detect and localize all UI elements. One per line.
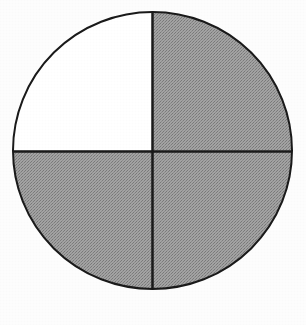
- fraction-circle-diagram: [0, 0, 306, 325]
- figure-container: [0, 0, 306, 325]
